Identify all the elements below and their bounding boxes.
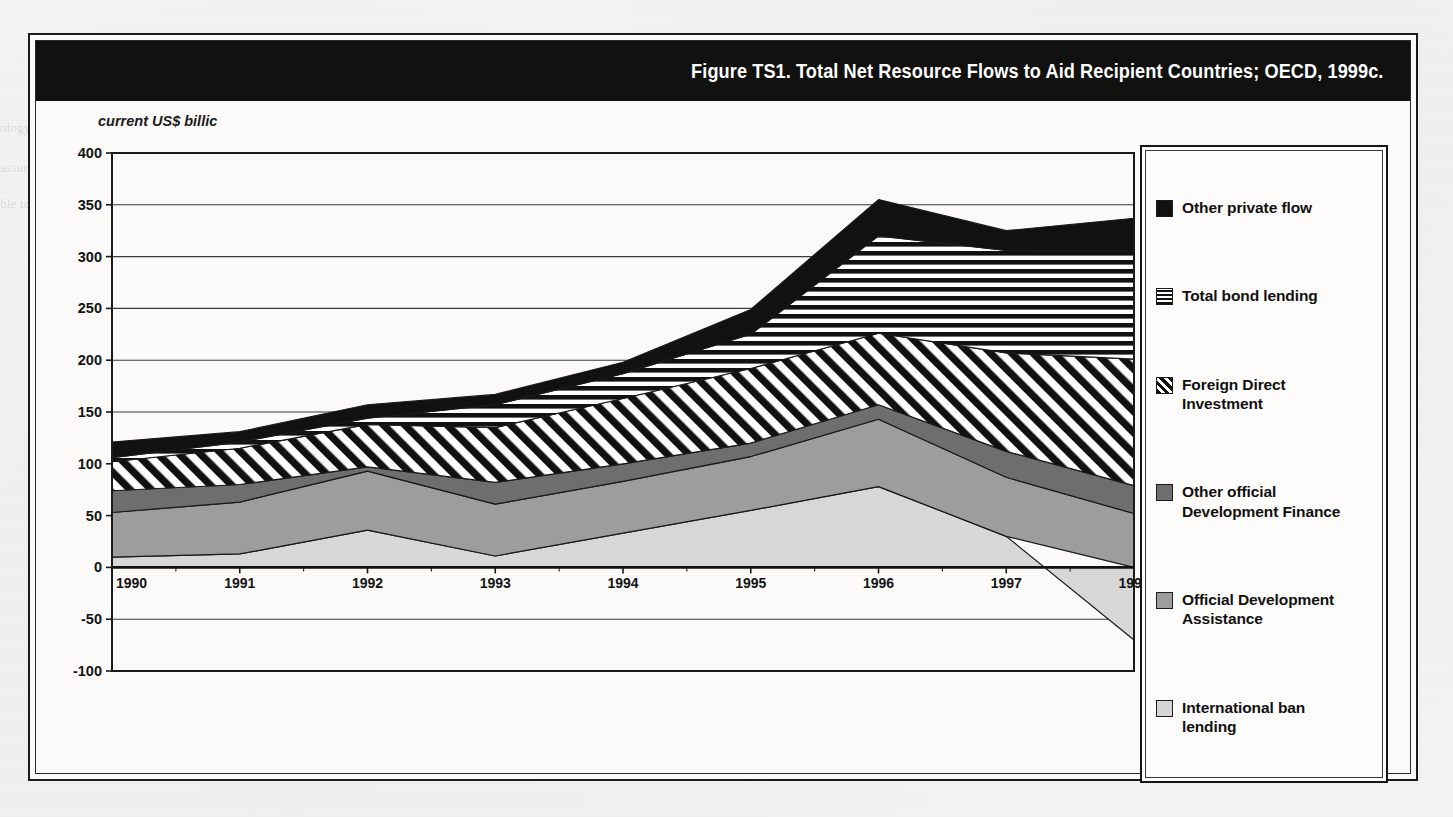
legend-item-label: Other official Development Finance <box>1182 482 1360 520</box>
x-tick-label: 1991 <box>224 575 255 591</box>
y-tick-label: 50 <box>86 508 102 524</box>
x-axis-tick-labels: 199019911992199319941995199619971998 <box>116 575 1144 591</box>
plot-block: current US$ billic <box>36 101 1410 773</box>
y-tick-label: 0 <box>94 559 102 575</box>
x-tick-label: 1995 <box>735 575 766 591</box>
y-axis-tick-labels: 400350300250200150100500-50-100 <box>73 145 102 679</box>
stacked-area-chart: 400350300250200150100500-50-100 19901991… <box>54 143 1144 783</box>
x-tick-label: 1994 <box>607 575 638 591</box>
legend-item-label: Official Development Assistance <box>1182 590 1360 628</box>
legend-item[interactable]: Foreign Direct Investment <box>1156 373 1376 415</box>
x-tick-label: 1992 <box>352 575 383 591</box>
y-tick-label: 400 <box>78 145 102 161</box>
x-tick-label: 1990 <box>116 575 147 591</box>
diagonal-stripe-swatch-icon <box>1156 377 1173 394</box>
y-tick-label: 300 <box>78 249 102 265</box>
chart-legend: Other private flowTotal bond lendingFore… <box>1140 145 1388 783</box>
y-tick-label: 250 <box>78 300 102 316</box>
figure-inner-border: Figure TS1. Total Net Resource Flows to … <box>35 40 1411 774</box>
legend-item[interactable]: International ban lending <box>1156 696 1376 738</box>
legend-item-label: Other private flow <box>1182 198 1312 217</box>
y-tick-label: 100 <box>78 456 102 472</box>
legend-item-label: International ban lending <box>1182 698 1360 736</box>
light-gray-swatch-icon <box>1156 700 1173 717</box>
dark-gray-swatch-icon <box>1156 484 1173 501</box>
legend-item[interactable]: Total bond lending <box>1156 284 1376 307</box>
legend-item-label: Total bond lending <box>1182 286 1318 305</box>
y-tick-label: 200 <box>78 352 102 368</box>
plot-area: 400350300250200150100500-50-100 19901991… <box>54 143 1144 783</box>
y-tick-label: -50 <box>81 611 102 627</box>
area-series-group <box>112 200 1134 640</box>
legend-item[interactable]: Other official Development Finance <box>1156 480 1376 522</box>
y-tick-label: 150 <box>78 404 102 420</box>
horizontal-stripe-swatch-icon <box>1156 288 1173 305</box>
legend-item[interactable]: Other private flow <box>1156 196 1376 219</box>
x-tick-label: 1997 <box>991 575 1022 591</box>
x-tick-label: 1993 <box>480 575 511 591</box>
x-tick-label: 1996 <box>863 575 894 591</box>
legend-item[interactable]: Official Development Assistance <box>1156 588 1376 630</box>
y-axis-caption: current US$ billic <box>98 113 217 129</box>
figure-frame: Figure TS1. Total Net Resource Flows to … <box>28 33 1418 781</box>
figure-title: Figure TS1. Total Net Resource Flows to … <box>692 60 1384 83</box>
figure-title-bar: Figure TS1. Total Net Resource Flows to … <box>36 41 1410 101</box>
solid-black-swatch-icon <box>1156 200 1173 217</box>
legend-item-label: Foreign Direct Investment <box>1182 375 1360 413</box>
legend-item-list: Other private flowTotal bond lendingFore… <box>1156 163 1376 771</box>
mid-gray-swatch-icon <box>1156 592 1173 609</box>
y-tick-label: 350 <box>78 197 102 213</box>
y-tick-label: -100 <box>73 663 102 679</box>
